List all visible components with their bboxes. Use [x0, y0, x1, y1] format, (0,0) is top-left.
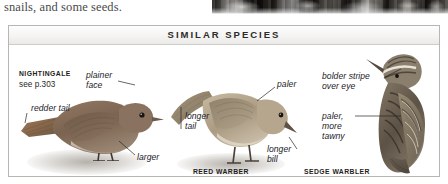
species-name-reed-warbler: REED WARBER: [193, 168, 249, 177]
species-caption-reed-warbler: REED WARBER see p.330: [193, 168, 249, 177]
annotation-paler-middle: paler: [277, 79, 296, 89]
photo-strip-fade-layer: [212, 0, 448, 14]
annotation-bolder-stripe: bolder stripe over eye: [322, 71, 370, 91]
annotation-redder-tail: redder tail: [31, 103, 70, 113]
species-name-sedge-warbler: SEDGE WARBLER: [304, 168, 370, 177]
annotation-plainer-face: plainer face: [86, 70, 112, 90]
species-name-nightingale: NIGHTINGALE: [19, 70, 71, 79]
sedge-warbler-bird-illustration: [364, 49, 440, 177]
page-body-text: snails, and some seeds.: [4, 0, 122, 15]
photo-strip-thumbnail: [212, 0, 448, 14]
annotation-longer-tail: longer tail: [185, 111, 209, 131]
species-caption-nightingale: NIGHTINGALE see p.303: [19, 70, 71, 90]
similar-species-body: plainer face redder tail larger longer t…: [9, 45, 439, 177]
annotation-longer-bill: longer bill: [267, 144, 291, 164]
species-caption-sedge-warbler: SEDGE WARBLER see p.328: [304, 168, 370, 177]
annotation-paler-tawny: paler, more tawny: [322, 111, 345, 141]
page-title: SIMILAR SPECIES: [9, 29, 439, 40]
species-page-nightingale[interactable]: see p.303: [19, 80, 71, 91]
annotation-larger: larger: [137, 152, 159, 162]
similar-species-panel: SIMILAR SPECIES: [8, 25, 440, 177]
